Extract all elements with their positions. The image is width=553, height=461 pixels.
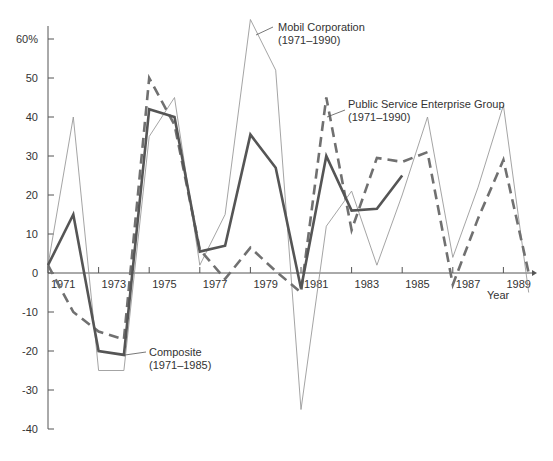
y-tick-label: 10 [26, 228, 38, 240]
y-tick-label: 0 [32, 267, 38, 279]
y-tick-label: 40 [26, 111, 38, 123]
y-tick-label: 50 [26, 72, 38, 84]
annotation-composite-line2: (1971–1985) [149, 359, 211, 371]
y-tick-label: 30 [26, 150, 38, 162]
x-tick-label: 1981 [304, 278, 328, 290]
x-tick-label: 1975 [152, 278, 176, 290]
y-tick-label: -40 [22, 423, 38, 435]
series-line-0 [48, 20, 529, 410]
annotation-pseg: Public Service Enterprise Group (1971–19… [327, 98, 505, 123]
x-axis-label: Year [487, 289, 510, 301]
annotation-mobil-line2: (1971–1990) [278, 34, 340, 46]
annotations: Mobil Corporation (1971–1990) Public Ser… [125, 21, 505, 371]
series-line-1 [48, 78, 529, 339]
x-tick-label: 1973 [102, 278, 126, 290]
annotation-composite-line1: Composite [149, 346, 202, 358]
line-chart: 60%50403020100-10-20-30-40 1971197319751… [0, 0, 553, 461]
y-tick-label: 60% [16, 33, 38, 45]
x-tick-label: 1977 [203, 278, 227, 290]
annotation-mobil-line1: Mobil Corporation [278, 21, 365, 33]
series-line-2 [48, 109, 402, 355]
y-tick-label: -20 [22, 345, 38, 357]
annotation-mobil: Mobil Corporation (1971–1990) [256, 21, 365, 46]
y-axis: 60%50403020100-10-20-30-40 [16, 26, 54, 435]
y-tick-label: -10 [22, 306, 38, 318]
y-tick-label: 20 [26, 189, 38, 201]
annotation-pseg-line2: (1971–1990) [348, 111, 410, 123]
y-tick-label: -30 [22, 384, 38, 396]
x-tick-label: 1987 [456, 278, 480, 290]
x-tick-label: 1979 [253, 278, 277, 290]
axis-arrow-icon [532, 270, 537, 276]
annotation-composite: Composite (1971–1985) [125, 346, 211, 371]
x-tick-label: 1985 [405, 278, 429, 290]
x-tick-label: 1983 [355, 278, 379, 290]
annotation-pseg-line1: Public Service Enterprise Group [348, 98, 505, 110]
series-layer [48, 20, 529, 410]
